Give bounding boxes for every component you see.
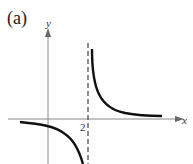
x-axis-label: x (181, 114, 187, 126)
y-axis-label: y (45, 17, 51, 29)
curve-left-branch (20, 122, 83, 164)
curve-right-branch (92, 49, 162, 116)
asymptote-tick-label: 2 (80, 121, 86, 133)
graph: x y 2 (0, 0, 193, 164)
y-axis-arrow-icon (45, 28, 51, 37)
